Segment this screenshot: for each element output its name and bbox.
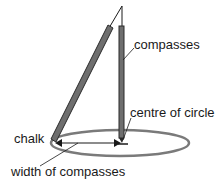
- compasses-leader: [123, 48, 134, 60]
- width-arrow-head-right: [114, 139, 121, 147]
- compass-leg-slanted: [51, 25, 113, 142]
- width-of-compasses-label: width of compasses: [11, 165, 125, 178]
- diagram-graphic: [0, 0, 223, 189]
- apex-line-left: [109, 6, 122, 28]
- centre-of-circle-label: centre of circle: [130, 106, 215, 119]
- compasses-diagram: compasses centre of circle chalk width o…: [0, 0, 223, 189]
- chalk-label: chalk: [14, 132, 44, 145]
- compasses-label: compasses: [134, 38, 200, 51]
- width-leader: [40, 143, 78, 166]
- compass-leg-vertical: [119, 26, 124, 138]
